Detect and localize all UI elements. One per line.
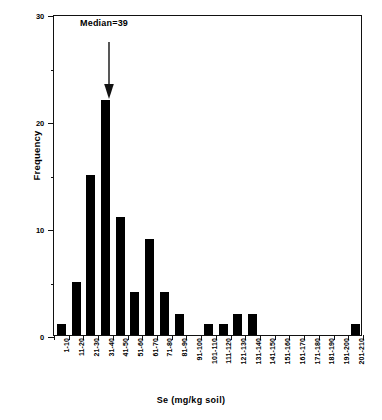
x-axis-tick-label: 131-140: [255, 338, 262, 364]
x-axis-tick-label: 81-90: [181, 338, 188, 356]
bar: [219, 324, 228, 335]
x-axis-tick-label: 191-200: [343, 338, 350, 364]
x-axis-tick-label: 71-80: [166, 338, 173, 356]
x-axis-tick-label: 1-10: [63, 338, 70, 352]
x-axis-tick-label: 111-120: [225, 338, 232, 364]
bar: [116, 217, 125, 335]
x-axis-title: Se (mg/kg soil): [0, 395, 382, 405]
x-axis-tick-label: 101-110: [211, 338, 218, 364]
x-axis-tick-label: 151-160: [284, 338, 291, 364]
bar: [248, 314, 257, 335]
bar: [101, 100, 110, 335]
bar-series: [54, 16, 361, 335]
x-axis-tick-label: 31-40: [108, 338, 115, 356]
x-axis-tick-label: 91-100: [196, 338, 203, 360]
x-axis-tick-label: 121-130: [240, 338, 247, 364]
bar: [86, 175, 95, 336]
x-axis-tick-label: 61-70: [152, 338, 159, 356]
x-axis-tick-label: 141-150: [269, 338, 276, 364]
x-axis-tick-labels: 1-1011-2021-3031-4041-5051-6061-7071-808…: [53, 338, 362, 386]
bar: [160, 292, 169, 335]
x-axis-tick-label: 21-30: [93, 338, 100, 356]
bar: [233, 314, 242, 335]
histogram-figure: Frequency Median=39 0102030 1-1011-2021-…: [0, 0, 382, 420]
y-axis-title: Frequency: [31, 131, 42, 181]
x-axis-tick-label: 181-190: [328, 338, 335, 364]
y-axis-tick-label: 20: [36, 118, 44, 129]
plot-area: 0102030: [53, 15, 362, 336]
y-axis-tick-label: 10: [36, 225, 44, 236]
y-axis-tick-label: 0: [40, 332, 44, 343]
x-axis-tick-label: 201-210: [358, 338, 365, 364]
bar: [145, 239, 154, 335]
bar: [57, 324, 66, 335]
x-axis-tick-label: 171-180: [314, 338, 321, 364]
bar: [175, 314, 184, 335]
bar: [72, 282, 81, 336]
x-axis-tick-label: 11-20: [78, 338, 85, 356]
bar: [130, 292, 139, 335]
x-axis-tick-label: 51-60: [137, 338, 144, 356]
bar: [351, 324, 360, 335]
x-axis-tick-label: 41-50: [122, 338, 129, 356]
bar: [204, 324, 213, 335]
y-axis-tick-label: 30: [36, 11, 44, 22]
x-axis-tick-label: 161-170: [299, 338, 306, 364]
